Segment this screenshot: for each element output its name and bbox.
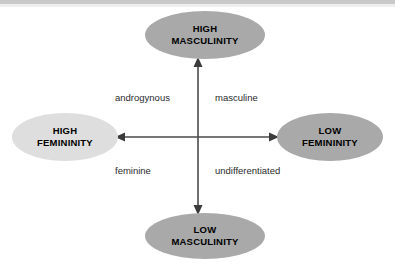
node-high-masculinity-line1: HIGH: [193, 23, 218, 35]
node-high-femininity-line2: FEMININITY: [37, 137, 93, 149]
quadrant-label-androgynous: androgynous: [115, 92, 170, 103]
node-low-femininity-line2: FEMININITY: [302, 137, 358, 149]
node-low-masculinity: LOW MASCULINITY: [145, 213, 265, 259]
node-low-femininity: LOW FEMININITY: [277, 113, 383, 161]
diagram-canvas: HIGH MASCULINITY HIGH FEMININITY LOW FEM…: [0, 0, 395, 269]
node-low-masculinity-line1: LOW: [194, 224, 217, 236]
node-high-femininity: HIGH FEMININITY: [12, 113, 118, 161]
top-border-band-fade: [0, 4, 395, 7]
node-high-femininity-line1: HIGH: [53, 125, 78, 137]
quadrant-label-feminine: feminine: [115, 165, 151, 176]
node-high-masculinity: HIGH MASCULINITY: [145, 11, 265, 59]
node-high-masculinity-line2: MASCULINITY: [171, 35, 238, 47]
quadrant-label-undifferentiated: undifferentiated: [215, 165, 280, 176]
node-low-femininity-line1: LOW: [319, 125, 342, 137]
node-low-masculinity-line2: MASCULINITY: [171, 236, 238, 248]
quadrant-label-masculine: masculine: [215, 92, 258, 103]
